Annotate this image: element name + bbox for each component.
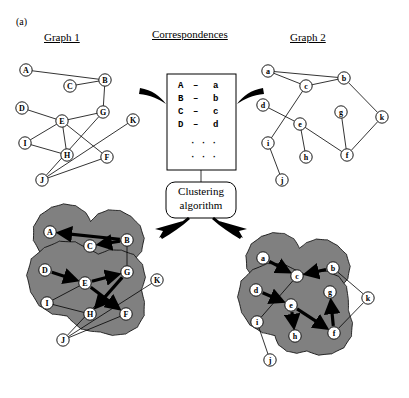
edge-c-i	[271, 91, 302, 138]
correspondence-right: a	[213, 81, 219, 91]
edge-k-f	[351, 122, 378, 151]
graph2-node-k: k	[376, 111, 388, 123]
edge-b-k	[348, 82, 377, 112]
arrow-e-h	[292, 312, 294, 325]
edge-e-f	[305, 127, 342, 151]
edge-a-c	[274, 73, 300, 83]
clustering-box-line2: algorithm	[180, 199, 223, 211]
graph1-node-A: A	[20, 64, 32, 76]
node-label: g	[328, 288, 332, 297]
node-label: I	[23, 139, 26, 148]
graph2-node-a: a	[262, 65, 274, 77]
node-label: e	[298, 120, 302, 129]
node-label: c	[304, 82, 308, 91]
clustered-graph1-node-K: K	[151, 274, 163, 286]
node-label: d	[261, 101, 266, 110]
output-arrow-right-icon	[212, 217, 247, 239]
node-label: G	[124, 268, 130, 277]
graph1-node-E: E	[56, 115, 68, 127]
correspondence-dash: –	[193, 107, 198, 117]
graph1-node-H: H	[61, 149, 73, 161]
edge-c-b	[312, 79, 338, 84]
edge-a-b	[274, 72, 338, 78]
edge-E-H	[63, 127, 66, 149]
clustered-graph1-node-H: H	[84, 308, 96, 320]
node-label: e	[289, 301, 293, 310]
graph1-node-F: F	[101, 151, 113, 163]
edge-I-H	[31, 145, 61, 154]
edge-C-B	[76, 81, 99, 85]
figure-panel-a: (a) Graph 1 Correspondences Graph 2 ACBD…	[0, 0, 409, 398]
node-label: J	[40, 176, 44, 185]
swoosh-left-icon	[139, 88, 166, 104]
correspondence-right: c	[213, 107, 218, 117]
graph2-edges	[269, 72, 378, 175]
correspondence-right: b	[213, 94, 218, 104]
graph2-nodes: acbdegkihfj	[257, 65, 388, 186]
clustered-graph1-node-A: A	[44, 226, 56, 238]
edge-e-h	[301, 130, 305, 151]
edge-i-j	[270, 149, 280, 174]
node-label: K	[130, 116, 137, 125]
node-label: C	[87, 242, 93, 251]
correspondence-dash: –	[193, 94, 198, 104]
edge-E-F	[67, 125, 102, 153]
graph1-edges	[28, 71, 128, 178]
graph2-node-j: j	[276, 174, 288, 186]
node-label: j	[268, 356, 272, 365]
node-label: F	[105, 153, 110, 162]
clustering-box-line1: Clustering	[178, 185, 224, 197]
output-arrow-left-icon	[155, 217, 190, 239]
edge-A-B	[32, 71, 99, 79]
edge-B-G	[103, 86, 104, 106]
correspondence-dash: –	[193, 120, 198, 130]
node-label: h	[293, 332, 298, 341]
node-label: d	[254, 286, 259, 295]
figure-canvas: ACBDEGKIHFJ acbdegkihfj ACBDEGKIHFJ acbd…	[0, 0, 409, 398]
node-label: a	[261, 254, 265, 263]
node-label: g	[339, 108, 343, 117]
correspondence-left: C	[178, 107, 184, 117]
node-label: F	[124, 310, 129, 319]
graph1-node-G: G	[97, 106, 109, 118]
node-label: b	[331, 264, 336, 273]
node-label: a	[266, 67, 270, 76]
clustered-graph1-node-I: I	[41, 297, 53, 309]
clustered-graph2-node-i: i	[251, 316, 263, 328]
edge-g-f	[342, 118, 346, 149]
edge-J-F	[48, 159, 101, 178]
correspondence-left: A	[178, 81, 184, 91]
correspondence-dash: –	[193, 81, 198, 91]
node-label: f	[346, 151, 349, 160]
node-label: k	[380, 113, 385, 122]
clustered-graph1-node-B: B	[121, 234, 133, 246]
node-label: C	[67, 82, 73, 91]
node-label: G	[100, 108, 106, 117]
graph2-node-d: d	[257, 99, 269, 111]
graph2-node-b: b	[338, 72, 350, 84]
node-label: f	[333, 329, 336, 338]
clustered-graph2-node-g: g	[324, 286, 336, 298]
node-label: H	[87, 310, 94, 319]
correspondence-left: B	[178, 94, 184, 104]
clustered-graph2-node-k: k	[362, 292, 374, 304]
clustered-graph1-node-J: J	[57, 334, 69, 346]
clustered-graph1-node-C: C	[84, 240, 96, 252]
graph2-node-i: i	[262, 137, 274, 149]
graph1-node-C: C	[64, 80, 76, 92]
clustered-graph1-node-D: D	[39, 264, 51, 276]
graph2-node-e: e	[294, 118, 306, 130]
clustered-graph1-node-E: E	[79, 277, 91, 289]
edge-J-K	[47, 123, 128, 176]
arrow-f-g	[331, 303, 333, 326]
node-label: H	[64, 151, 71, 160]
node-label: D	[19, 104, 25, 113]
clustered-graph2-node-b: b	[327, 262, 339, 274]
clustered-graph2-node-d: d	[250, 284, 262, 296]
edge-I-E	[30, 124, 56, 140]
node-label: A	[47, 228, 53, 237]
clustered-graph2-node-a: a	[257, 252, 269, 264]
node-label: A	[23, 66, 29, 75]
node-label: h	[304, 153, 309, 162]
graph2-node-f: f	[341, 149, 353, 161]
